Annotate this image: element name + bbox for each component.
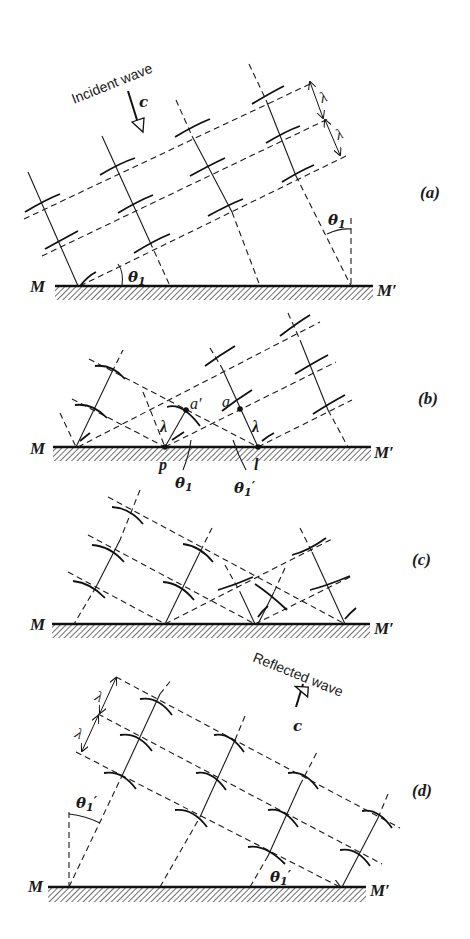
wavefront-line (116, 677, 400, 828)
ray-line (235, 716, 245, 740)
ray-line (102, 136, 150, 242)
point-a (237, 406, 243, 412)
panel-label-c: (c) (412, 550, 431, 569)
label-a-prime: a′ (190, 395, 202, 412)
reflected-wave-label: Reflected wave (251, 649, 346, 700)
ray-line (28, 172, 78, 286)
mirror-label-m-prime: M′ (373, 619, 394, 638)
velocity-arrow-head (132, 118, 144, 132)
ray-line (268, 785, 300, 856)
ray-line (176, 100, 192, 136)
ray-line (160, 817, 200, 887)
velocity-label: c (293, 717, 302, 735)
ray-line (266, 100, 296, 176)
panel-label-a: (a) (420, 183, 440, 202)
ray-line (120, 490, 140, 540)
ray-line (250, 856, 268, 887)
point-p (162, 444, 168, 450)
wavelength-label: λ (159, 418, 167, 435)
angle-label-theta1-prime: θ1′ (76, 794, 98, 814)
angle-label-theta1-prime: θ1′ (270, 868, 292, 888)
mirror-label-m: M (29, 277, 46, 296)
wavefront-line (68, 572, 165, 624)
mirror-label-m: M (29, 615, 46, 634)
wave-reflection-diagram: M M′ (0, 0, 470, 939)
ray-line (342, 818, 378, 887)
panel-a: M M′ (24, 60, 440, 300)
angle-label-theta1-prime: θ1′ (234, 479, 256, 499)
mirror-label-m-prime: M′ (373, 443, 394, 462)
wavelength-label: λ (72, 725, 85, 743)
angle-arc (69, 814, 100, 823)
wavefront-line (42, 118, 330, 256)
wavelength-label: λ (92, 688, 105, 706)
panel-c: M M′ (29, 490, 431, 638)
wavefront-line (78, 322, 320, 447)
wavelength-arrow (82, 716, 98, 751)
mirror-label-m: M (29, 439, 46, 458)
mirror-label-m-prime: M′ (376, 281, 397, 300)
label-a: a (222, 393, 230, 410)
panel-label-b: (b) (418, 389, 438, 408)
ray-line (296, 176, 351, 286)
panel-b: M M′ (29, 313, 438, 499)
mirror-hatching (53, 447, 371, 461)
ray-line (192, 136, 232, 212)
label-l: l (254, 456, 259, 473)
ray-line (300, 752, 317, 785)
mirror-hatching (52, 624, 370, 638)
ray-line (240, 592, 255, 624)
angle-label-theta1: θ1 (175, 474, 193, 494)
wave-crests (25, 86, 314, 286)
ray-line (300, 340, 328, 410)
mirror-hatching (55, 286, 373, 300)
ray-line (121, 694, 160, 778)
ray-line (249, 64, 266, 100)
label-p: p (157, 456, 167, 474)
point-l (255, 444, 261, 450)
panel-label-d: (d) (412, 781, 432, 800)
velocity-label: c (139, 93, 148, 111)
wavelength-label: λ (251, 418, 259, 435)
ray-line (200, 528, 212, 552)
wavefront-line (108, 497, 345, 624)
wavefront-line (80, 155, 348, 286)
wavefront-line (258, 400, 352, 447)
angle-label-theta1: θ1 (328, 211, 346, 231)
wave-crests (104, 699, 392, 866)
angle-label-theta1: θ1 (128, 268, 146, 288)
ray-line (74, 587, 96, 624)
ray-line (76, 372, 112, 447)
mirror-label-m-prime: M′ (369, 881, 390, 900)
velocity-arrow-shaft (128, 91, 137, 120)
panel-d: M M′ (27, 649, 432, 902)
wavefront-line (24, 83, 312, 219)
point-a-prime (183, 407, 189, 413)
mirror-label-m: M (27, 877, 44, 896)
ray-line (200, 740, 235, 817)
ray-line (232, 212, 260, 286)
mirror-hatching (48, 887, 366, 902)
ray-line (328, 410, 348, 447)
ray-line (160, 679, 172, 694)
ray-line (150, 242, 170, 286)
ray-line (60, 413, 76, 447)
